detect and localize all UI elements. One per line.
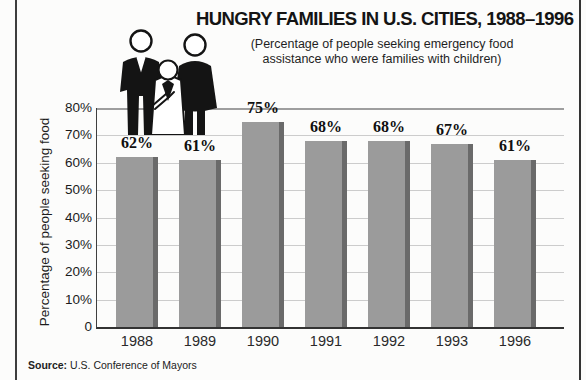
bar-value-label: 62% — [107, 134, 167, 154]
x-tick-label: 1990 — [231, 333, 295, 349]
y-tick-label: 30% — [42, 237, 92, 253]
x-tick-label: 1992 — [357, 333, 421, 349]
woman-leg-icon — [185, 108, 193, 135]
woman-leg-icon — [197, 108, 205, 135]
bar-1996 — [494, 160, 536, 327]
bar-1990 — [242, 122, 284, 327]
bar-1991 — [305, 141, 347, 327]
chart-title: HUNGRY FAMILIES IN U.S. CITIES, 1988–199… — [196, 8, 568, 30]
x-tick-label: 1989 — [168, 333, 232, 349]
bar-value-label: 67% — [422, 121, 482, 141]
bar-value-label: 61% — [170, 137, 230, 157]
bar-1993 — [431, 144, 473, 327]
y-tick-label: 50% — [42, 182, 92, 198]
x-tick-label: 1988 — [105, 333, 169, 349]
man-head-icon — [131, 31, 152, 52]
chart-subtitle: (Percentage of people seeking emergency … — [226, 37, 538, 66]
page-edge-left-rule — [15, 0, 17, 380]
bar-1992 — [368, 141, 410, 327]
bar-1988 — [116, 157, 158, 327]
source-label: Source: — [28, 359, 67, 371]
chart-subtitle-line-1: (Percentage of people seeking emergency … — [226, 37, 538, 52]
x-tick-label: 1996 — [483, 333, 547, 349]
y-tick-label: 20% — [42, 264, 92, 280]
child-head-icon — [159, 61, 178, 80]
family-pictogram-icon — [107, 28, 231, 135]
y-tick-label: 60% — [42, 155, 92, 171]
x-tick-label: 1993 — [420, 333, 484, 349]
page: HUNGRY FAMILIES IN U.S. CITIES, 1988–199… — [0, 0, 586, 380]
y-tick-label: 0 — [42, 319, 92, 335]
woman-head-icon — [185, 35, 206, 56]
bar-1989 — [179, 160, 221, 327]
bar-value-label: 75% — [233, 99, 293, 119]
bar-value-label: 68% — [296, 118, 356, 138]
chart-subtitle-line-2: assistance who were families with childr… — [226, 52, 538, 67]
source-note: Source:U.S. Conference of Mayors — [28, 359, 197, 371]
y-tick-label: 10% — [42, 292, 92, 308]
page-edge-right-rule — [579, 0, 581, 380]
y-tick-label: 40% — [42, 210, 92, 226]
bar-value-label: 61% — [485, 137, 545, 157]
y-tick-label: 70% — [42, 127, 92, 143]
x-tick-label: 1991 — [294, 333, 358, 349]
y-tick-label: 80% — [42, 100, 92, 116]
bar-value-label: 68% — [359, 118, 419, 138]
source-text: U.S. Conference of Mayors — [70, 359, 197, 371]
